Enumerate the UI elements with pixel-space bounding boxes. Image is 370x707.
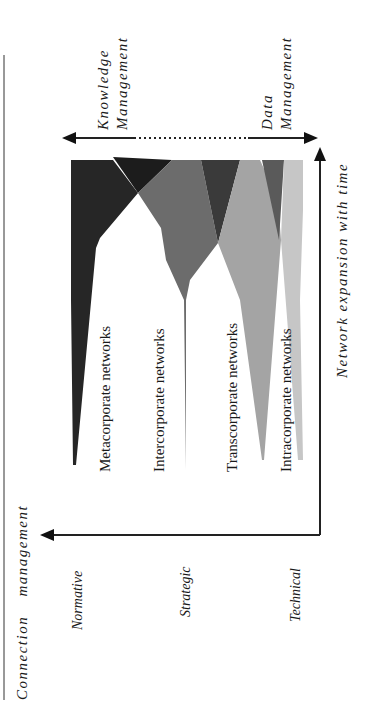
data-label-line1: Data: [258, 37, 277, 130]
knowledge-label-line1: Knowledge: [94, 37, 113, 130]
knowledge-management-label: Knowledge Management: [94, 37, 132, 130]
level-technical: Technical: [288, 568, 304, 622]
y-axis-label-part1: Connection: [14, 616, 30, 700]
level-normative: Normative: [70, 571, 86, 630]
level-strategic: Strategic: [178, 566, 194, 617]
intercorporate-label: Intercorporate networks: [151, 328, 168, 472]
diagram-canvas: Knowledge Management Data Management Met…: [0, 0, 370, 707]
data-label-line2: Management: [277, 37, 296, 130]
shape-intercorporate: [138, 160, 218, 470]
x-axis-label: Network expansion with time: [334, 163, 351, 378]
y-axis-label: Connection management: [14, 505, 31, 700]
metacorporate-label: Metacorporate networks: [97, 326, 114, 472]
arrowhead-right-icon: [304, 132, 318, 144]
knowledge-label-line2: Management: [113, 37, 132, 130]
knowledge-data-arrow: [62, 132, 318, 144]
transcorporate-label: Transcorporate networks: [224, 323, 241, 472]
arrowhead-left-icon: [62, 132, 76, 144]
data-management-label: Data Management: [258, 37, 296, 130]
intracorporate-label: Intracorporate networks: [278, 328, 295, 472]
y-axis-label-part2: management: [14, 505, 30, 597]
arrowhead-up-icon: [314, 147, 326, 161]
arrowhead-left-axis-icon: [40, 529, 54, 541]
